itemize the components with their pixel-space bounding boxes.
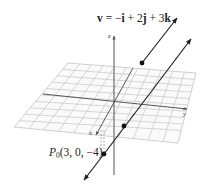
line-point <box>122 124 127 129</box>
equation-part: + 2 <box>125 12 143 24</box>
z-axis-label: z <box>108 33 111 40</box>
vector-v-tail-point <box>140 61 145 66</box>
equation-part: = − <box>103 12 122 24</box>
xy-plane-grid <box>14 63 196 143</box>
point-p0-label: P0(3, 0, −4) <box>49 147 103 160</box>
vector-v <box>142 18 177 63</box>
vector-equation-label: v = −i + 2j + 3k <box>97 13 171 25</box>
x-axis-label: x <box>89 130 92 137</box>
equation-part: + 3 <box>147 12 165 24</box>
3d-line-diagram <box>0 0 205 188</box>
unit-k: k <box>165 12 171 24</box>
point-coords: (3, 0, −4) <box>60 146 103 158</box>
point-name: P <box>49 146 56 158</box>
y-axis-label: y <box>183 111 186 118</box>
